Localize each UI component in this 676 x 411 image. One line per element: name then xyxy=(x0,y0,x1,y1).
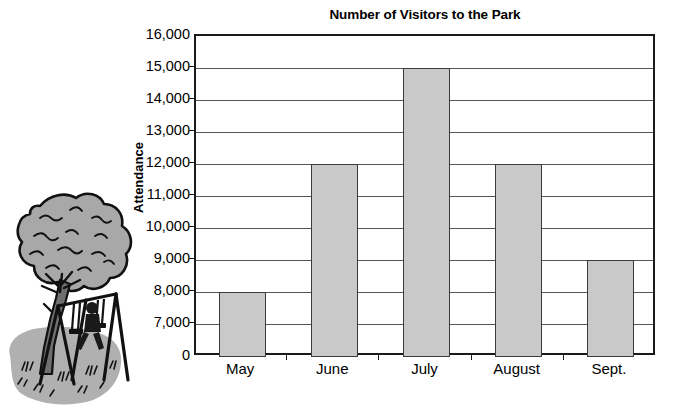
y-axis-tick-label: 13,000 xyxy=(128,123,190,138)
y-axis-tick-label: 11,000 xyxy=(128,187,190,202)
y-axis-tick-label: 12,000 xyxy=(128,155,190,170)
y-axis-tick-label: 9,000 xyxy=(128,251,190,266)
x-axis-tick-label: May xyxy=(194,360,286,378)
y-axis-tick-label: 8,000 xyxy=(128,283,190,298)
bar xyxy=(495,164,542,357)
x-axis-tick-label: June xyxy=(286,360,378,378)
y-axis-tick-label: 14,000 xyxy=(128,91,190,106)
y-axis-tick-label: 7,000 xyxy=(128,315,190,330)
x-axis-tick-mark xyxy=(471,355,472,360)
x-axis-tick-mark xyxy=(286,355,287,360)
bar xyxy=(587,260,634,357)
bar xyxy=(403,68,450,357)
y-axis-tick-label: 0 xyxy=(128,348,190,363)
x-axis-tick-mark xyxy=(378,355,379,360)
x-axis-tick-mark xyxy=(563,355,564,360)
bar-chart-figure: Number of Visitors to the Park Attendanc… xyxy=(0,0,676,411)
x-axis-tick-label: Sept. xyxy=(563,360,655,378)
chart-title: Number of Visitors to the Park xyxy=(194,7,656,22)
bar xyxy=(311,164,358,357)
y-axis-tick-labels: 16,00015,00014,00013,00012,00011,00010,0… xyxy=(128,0,190,411)
y-axis-tick-label: 15,000 xyxy=(128,59,190,74)
plot-area xyxy=(194,34,655,355)
y-axis-tick-label: 10,000 xyxy=(128,219,190,234)
bar xyxy=(219,292,266,357)
x-axis-tick-label: July xyxy=(378,360,470,378)
y-axis-tick-label: 16,000 xyxy=(128,27,190,42)
x-axis-tick-label: August xyxy=(471,360,563,378)
